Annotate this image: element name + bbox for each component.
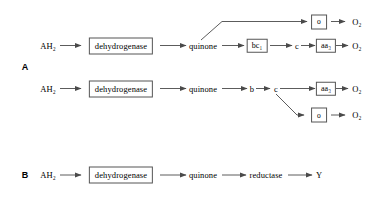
node-quinone-a2: quinone xyxy=(189,84,217,93)
node-c-a1: c xyxy=(295,41,299,50)
branch-c-to-o-bottom xyxy=(276,94,304,115)
node-b-a2: b xyxy=(250,84,254,93)
node-oxidase-o-top: o xyxy=(311,14,327,29)
diagram-canvas: A B o O₂ AH₂ dehydrogenase quinone bc₁ c… xyxy=(0,0,367,198)
node-bc1-a1: bc₁ xyxy=(247,38,268,53)
node-ah2-a1: AH₂ xyxy=(40,41,56,50)
node-c-a2: c xyxy=(274,84,278,93)
node-dehydrogenase-b: dehydrogenase xyxy=(89,167,153,184)
node-dehydrogenase-a1: dehydrogenase xyxy=(89,37,153,54)
node-o2-top: O₂ xyxy=(352,17,361,26)
node-quinone-a1: quinone xyxy=(189,41,217,50)
panel-label-b: B xyxy=(22,171,29,180)
node-dehydrogenase-a2: dehydrogenase xyxy=(89,80,153,97)
node-oxidase-o-bottom: o xyxy=(311,108,327,123)
panel-label-a: A xyxy=(22,63,29,72)
node-ah2-b: AH₂ xyxy=(40,171,56,180)
connector-lines-layer xyxy=(0,0,367,198)
node-ah2-a2: AH₂ xyxy=(40,84,56,93)
node-o2-a2: O₂ xyxy=(352,84,361,93)
node-aa3-a2: aa₃ xyxy=(316,81,336,96)
node-aa3-a1: aa₃ xyxy=(316,38,336,53)
branch-quinone-to-o-top xyxy=(201,22,307,41)
node-reductase-b: reductase xyxy=(250,171,283,180)
node-y-b: Y xyxy=(316,171,322,180)
node-o2-a1: O₂ xyxy=(352,41,361,50)
node-o2-bottom: O₂ xyxy=(352,111,361,120)
node-quinone-b: quinone xyxy=(189,171,217,180)
